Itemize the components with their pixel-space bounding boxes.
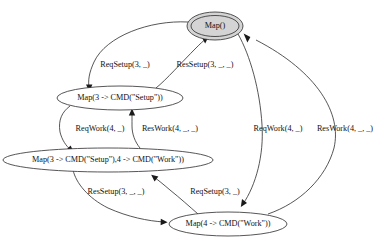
node-map-work[interactable]: Map(4 -> CMD("Work")) bbox=[169, 212, 287, 236]
edge-label-res-setup-bottom: ResSetup(3, _, _) bbox=[88, 187, 145, 196]
node-map-setup-work-label: Map(3 -> CMD("Setup"),4 -> CMD("Work")) bbox=[32, 155, 184, 164]
edge-label-res-work-right: ResWork(4, _, _) bbox=[317, 124, 373, 133]
edge-label-req-work-mid: ReqWork(4, _) bbox=[76, 124, 125, 133]
arrowhead-req-setup-bottom bbox=[151, 175, 158, 182]
arrowhead-req-work-right bbox=[241, 199, 247, 207]
edge-label-req-setup-top: ReqSetup(3, _) bbox=[100, 60, 150, 69]
graph-svg: ReqSetup(3, _) ResSetup(3, _, _) ReqWork… bbox=[0, 0, 387, 245]
edge-req-setup-top[interactable]: ReqSetup(3, _) bbox=[86, 22, 188, 92]
edges-layer: ReqSetup(3, _) ResSetup(3, _, _) ReqWork… bbox=[59, 22, 373, 225]
edge-path-res-work-mid bbox=[132, 112, 140, 148]
edge-path-req-setup-top bbox=[89, 22, 188, 88]
node-map-empty-label: Map() bbox=[205, 21, 226, 30]
edge-label-res-setup-top: ResSetup(3, _, _) bbox=[177, 60, 234, 69]
arrowhead-res-work-right bbox=[244, 34, 251, 43]
edge-path-req-work-right bbox=[238, 34, 262, 204]
arrowhead-res-setup-bottom bbox=[161, 219, 168, 225]
edge-res-work-mid[interactable]: ResWork(4, _, _) bbox=[129, 109, 199, 148]
edge-label-res-work-mid: ResWork(4, _, _) bbox=[142, 124, 198, 133]
edge-req-work-right[interactable]: ReqWork(4, _) bbox=[238, 34, 303, 207]
node-map-setup-label: Map(3 -> CMD("Setup")) bbox=[77, 93, 163, 102]
edge-label-req-work-right: ReqWork(4, _) bbox=[254, 124, 303, 133]
node-map-empty[interactable]: Map() bbox=[187, 12, 243, 40]
edge-label-req-setup-bottom: ReqSetup(3, _) bbox=[190, 187, 240, 196]
edge-res-setup-top[interactable]: ResSetup(3, _, _) bbox=[156, 37, 234, 88]
edge-path-req-work-mid bbox=[59, 106, 71, 150]
graph-canvas: ReqSetup(3, _) ResSetup(3, _, _) ReqWork… bbox=[0, 0, 387, 245]
edge-req-work-mid[interactable]: ReqWork(4, _) bbox=[59, 106, 124, 152]
node-map-work-label: Map(4 -> CMD("Work")) bbox=[186, 219, 271, 228]
edge-path-res-setup-bottom bbox=[73, 170, 164, 222]
node-map-setup-work[interactable]: Map(3 -> CMD("Setup"),4 -> CMD("Work")) bbox=[3, 148, 213, 172]
edge-req-setup-bottom[interactable]: ReqSetup(3, _) bbox=[151, 175, 240, 214]
node-map-setup[interactable]: Map(3 -> CMD("Setup")) bbox=[57, 86, 183, 110]
